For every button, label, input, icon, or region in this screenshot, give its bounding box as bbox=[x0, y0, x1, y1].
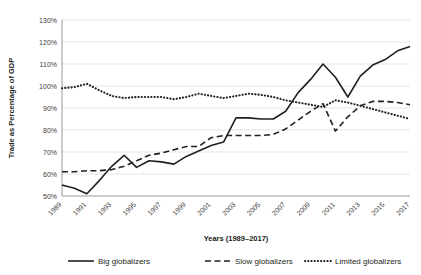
legend-label: Big globalizers bbox=[98, 257, 150, 266]
y-tick-label: 60% bbox=[43, 171, 57, 178]
series-line-limited-globalizers bbox=[62, 84, 410, 119]
legend-label: Limited globalizers bbox=[335, 257, 401, 266]
y-tick-label: 130% bbox=[39, 17, 57, 24]
x-tick-label: 2011 bbox=[321, 201, 337, 217]
x-tick-label: 1993 bbox=[96, 201, 112, 217]
series-line-slow-globalizers bbox=[62, 101, 410, 171]
y-tick-label: 110% bbox=[40, 61, 57, 68]
legend-label: Slow globalizers bbox=[235, 257, 293, 266]
trade-percentage-gdp-line-chart: 130%120%110%100%90%80%70%60%50% 19891991… bbox=[0, 0, 421, 275]
x-tick-label: 2001 bbox=[196, 201, 212, 217]
x-tick-label: 2009 bbox=[295, 201, 311, 217]
y-tick-label: 50% bbox=[43, 193, 57, 200]
y-tick-label: 70% bbox=[43, 149, 57, 156]
grid-lines bbox=[62, 20, 410, 174]
x-axis-tick-labels: 1989199119931995199719992001200320052007… bbox=[47, 201, 411, 217]
x-tick-label: 1991 bbox=[72, 201, 88, 217]
x-axis-title: Years (1989–2017) bbox=[204, 234, 269, 243]
y-tick-label: 90% bbox=[43, 105, 57, 112]
y-axis-title: Trade as Percentage of GDP bbox=[7, 58, 16, 158]
x-tick-label: 2017 bbox=[395, 201, 411, 217]
series-line-big-globalizers bbox=[62, 46, 410, 193]
chart-container: 130%120%110%100%90%80%70%60%50% 19891991… bbox=[0, 0, 421, 275]
x-tick-label: 1989 bbox=[47, 201, 63, 217]
y-tick-label: 120% bbox=[39, 39, 57, 46]
x-tick-label: 2003 bbox=[221, 201, 237, 217]
y-axis-tick-labels: 130%120%110%100%90%80%70%60%50% bbox=[39, 17, 57, 200]
x-tick-label: 1995 bbox=[121, 201, 137, 217]
x-tick-label: 2007 bbox=[270, 201, 286, 217]
chart-legend: Big globalizersSlow globalizersLimited g… bbox=[68, 257, 401, 266]
x-tick-label: 2013 bbox=[345, 201, 361, 217]
x-tick-label: 2015 bbox=[370, 201, 386, 217]
data-series-group bbox=[62, 46, 410, 193]
x-tick-label: 1997 bbox=[146, 201, 162, 217]
x-tick-label: 1999 bbox=[171, 201, 187, 217]
y-tick-label: 100% bbox=[39, 83, 57, 90]
y-tick-label: 80% bbox=[43, 127, 57, 134]
x-tick-label: 2005 bbox=[246, 201, 262, 217]
